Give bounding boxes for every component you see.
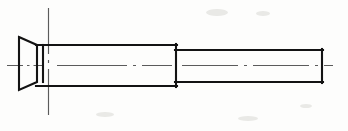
centerline-group: [7, 8, 333, 121]
bolt-drawing-svg: [0, 0, 348, 131]
bolt-outline-group: [19, 37, 323, 90]
technical-drawing-canvas: [0, 0, 348, 131]
countersunk-head-outline: [19, 37, 37, 90]
